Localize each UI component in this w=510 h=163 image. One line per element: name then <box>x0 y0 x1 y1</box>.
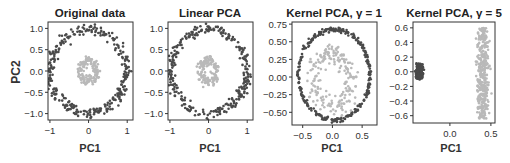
y-tick-label: 0.25 <box>269 54 288 65</box>
x-tick-label: 1 <box>245 125 250 136</box>
x-axis-label: PC1 <box>79 142 100 154</box>
panel-original-data: Original data PC1 1.00.50.0−0.5−1.0−101 <box>24 7 133 154</box>
panel-title: Linear PCA <box>179 7 241 19</box>
y-tick-label: −0.6 <box>389 110 408 121</box>
y-tick-label: −0.5 <box>24 87 43 98</box>
x-axis-label: PC1 <box>321 142 342 154</box>
x-tick-label: 0.5 <box>356 130 369 141</box>
y-tick-label: −0.50 <box>263 107 287 118</box>
series-inner-circle <box>475 27 493 120</box>
series-outer-circle <box>46 23 133 119</box>
shared-y-axis-label: PC2 <box>9 60 23 84</box>
y-tick-label: 0.0 <box>150 66 163 77</box>
x-tick-label: 0.0 <box>443 128 456 139</box>
x-tick-label: 1 <box>125 125 130 136</box>
panel-title: Kernel PCA, γ = 5 <box>406 7 502 19</box>
y-tick-label: 0.50 <box>269 36 288 47</box>
y-tick-label: 1.0 <box>150 23 163 34</box>
y-tick-label: 0.00 <box>269 72 288 83</box>
y-tick-label: 1.0 <box>30 23 43 34</box>
x-tick-label: −1 <box>45 125 56 136</box>
panel-linear-pca: Linear PCA PC1 1.00.50.0−0.5−1.0−101 <box>144 7 253 154</box>
y-tick-label: 0.5 <box>150 44 163 55</box>
x-tick-label: 0.0 <box>326 130 339 141</box>
scatter-points <box>46 23 133 119</box>
panel-title: Kernel PCA, γ = 1 <box>286 7 382 19</box>
y-tick-label: −1.0 <box>144 108 163 119</box>
y-tick-label: 0.75 <box>269 19 288 30</box>
panel-kernel-pca-gamma-1: Kernel PCA, γ = 1 PC1 0.750.500.250.00−0… <box>263 7 382 154</box>
series-inner-circle <box>196 55 220 88</box>
series-inner-circle <box>77 55 102 85</box>
y-tick-label: −0.5 <box>144 87 163 98</box>
x-axis-label: PC1 <box>440 142 461 154</box>
y-tick-label: −1.0 <box>24 108 43 119</box>
y-tick-label: −0.2 <box>389 81 408 92</box>
panel-title: Original data <box>55 7 126 19</box>
x-tick-label: −0.5 <box>293 130 312 141</box>
series-outer-circle <box>414 62 426 81</box>
series-inner-circle <box>306 44 359 117</box>
y-tick-label: 0.0 <box>395 66 408 77</box>
plot-frame <box>292 22 377 125</box>
series-outer-circle <box>166 22 253 121</box>
x-tick-label: 0.5 <box>484 128 497 139</box>
scatter-points <box>166 22 253 121</box>
y-tick-label: 0.6 <box>395 22 408 33</box>
scatter-points <box>414 27 493 120</box>
y-tick-label: −0.4 <box>389 96 408 107</box>
x-tick-label: 0 <box>86 125 91 136</box>
panel-kernel-pca-gamma-5: Kernel PCA, γ = 5 PC1 0.60.40.20.0−0.2−0… <box>389 7 502 154</box>
x-tick-label: −1 <box>165 125 176 136</box>
y-tick-label: 0.4 <box>395 37 408 48</box>
scatter-points <box>296 27 372 124</box>
y-tick-label: 0.2 <box>395 52 408 63</box>
y-tick-label: 0.5 <box>30 44 43 55</box>
y-tick-label: −0.25 <box>263 89 287 100</box>
x-axis-label: PC1 <box>199 142 220 154</box>
kernel-pca-figure: PC2 Original data PC1 1.00.50.0−0.5−1.0−… <box>0 0 510 163</box>
x-tick-label: 0 <box>206 125 211 136</box>
y-tick-label: 0.0 <box>30 66 43 77</box>
plot-frame <box>48 22 133 120</box>
